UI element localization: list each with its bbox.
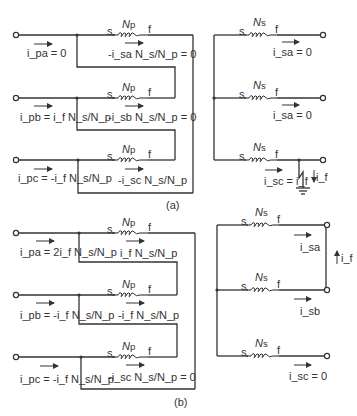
terminal-s-label: s	[107, 26, 113, 37]
current-ipb-label: i_pb = -i_f N_s/N_p	[20, 310, 114, 321]
fault-current-label: i_f	[316, 172, 328, 183]
current-isa-label: i_sa = 0	[273, 47, 312, 58]
winding-current-a-label: -i_sa N_s/N_p = 0	[108, 49, 196, 60]
terminal-f-label: f	[277, 345, 280, 356]
terminal-f-label: f	[148, 222, 151, 233]
terminal-f-label: f	[148, 284, 151, 295]
winding-np-label: Np	[122, 279, 135, 290]
terminal-s-label: s	[239, 89, 245, 100]
panel-a-caption: (a)	[166, 199, 179, 211]
terminal-s-label: s	[241, 281, 247, 292]
winding-np-label: Np	[122, 341, 135, 352]
winding-current-c-label: -i_sc N_s/N_p	[118, 175, 187, 186]
winding-current-b-label: -i_f N_s/N_p	[118, 310, 179, 321]
winding-ns-label: Ns	[253, 17, 266, 28]
winding-ns-label: Ns	[255, 272, 268, 283]
terminal-f-label: f	[148, 149, 151, 160]
terminal-s-label: s	[107, 151, 113, 162]
terminal-f-label: f	[277, 279, 280, 290]
terminal-s-label: s	[241, 347, 247, 358]
winding-current-b-label: -i_sb N_s/N_p = 0	[108, 112, 196, 123]
terminal-s-label: s	[239, 26, 245, 37]
terminal-s-label: s	[107, 348, 113, 359]
winding-ns-label: Ns	[255, 338, 268, 349]
terminal-f-label: f	[148, 24, 151, 35]
terminal-f-label: f	[275, 149, 278, 160]
current-isa-label: i_sa	[300, 242, 320, 253]
winding-ns-label: Ns	[255, 207, 268, 218]
winding-np-label: Np	[122, 19, 135, 30]
current-isc-label: i_sc = i_f	[264, 176, 308, 187]
winding-current-c-label: -i_sc N_s/N_p = 0	[108, 372, 196, 383]
current-ipc-label: i_pc = -i_f N_s/N_p	[18, 173, 112, 184]
terminal-s-label: s	[107, 286, 113, 297]
terminal-f-label: f	[275, 87, 278, 98]
winding-ns-label: Ns	[253, 80, 266, 91]
terminal-s-label: s	[107, 224, 113, 235]
terminal-s-label: s	[107, 89, 113, 100]
current-ipa-label: i_pa = 2i_f N_s/N_p	[20, 247, 117, 258]
current-ipc-label: i_pc = -i_f N_s/N_p	[20, 374, 114, 385]
current-isb-label: i_sb	[300, 306, 320, 317]
winding-np-label: Np	[122, 144, 135, 155]
winding-ns-label: Ns	[253, 142, 266, 153]
current-ipa-label: i_pa = 0	[27, 48, 66, 59]
current-ipb-label: i_pb = i_f N_s/N_p	[20, 112, 111, 123]
fault-current-label: i_f	[341, 253, 353, 264]
terminal-f-label: f	[275, 24, 278, 35]
terminal-s-label: s	[239, 151, 245, 162]
panel-b-caption: (b)	[174, 396, 187, 408]
terminal-f-label: f	[148, 87, 151, 98]
current-isc-label: i_sc = 0	[289, 371, 327, 382]
winding-current-a-label: i_f N_s/N_p	[120, 248, 177, 259]
terminal-s-label: s	[241, 216, 247, 227]
winding-np-label: Np	[122, 217, 135, 228]
current-isb-label: i_sa = 0	[273, 110, 312, 121]
winding-np-label: Np	[122, 82, 135, 93]
terminal-f-label: f	[277, 214, 280, 225]
terminal-f-label: f	[148, 346, 151, 357]
